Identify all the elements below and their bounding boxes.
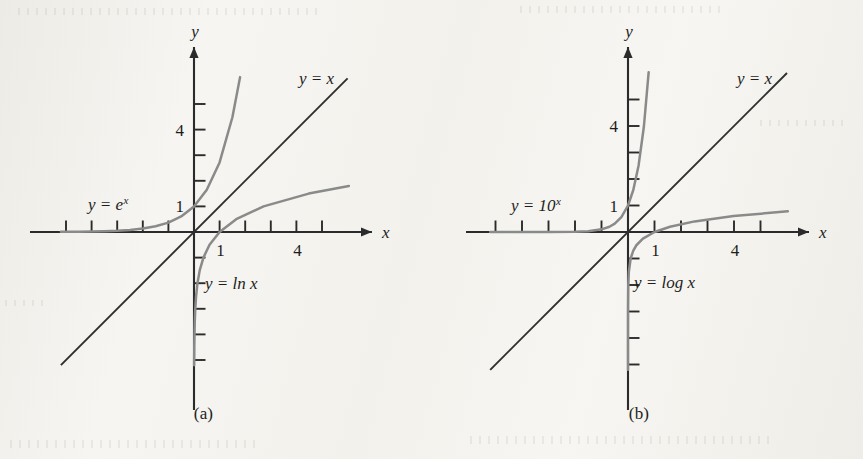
y-axis-label: y	[623, 22, 633, 41]
figure-pair: 1414xyy = xy = exy = ln x (a) 1414xyy = …	[0, 0, 863, 459]
chart-svg-a: 1414xyy = xy = exy = ln x	[0, 0, 431, 459]
y-axis-arrowhead	[623, 47, 632, 58]
y-axis-label: y	[189, 22, 199, 41]
logarithm-curve-label: y = ln x	[203, 274, 258, 293]
x-axis-tick-label: 1	[216, 241, 225, 260]
logarithm-curve-label: y = log x	[632, 273, 695, 292]
exponential-curve-label-exponent: x	[123, 194, 129, 206]
x-axis-arrowhead	[798, 227, 809, 236]
exponential-curve-label-base: y = 10	[509, 196, 556, 215]
panel-caption-a: (a)	[0, 404, 419, 424]
chart-content: 1414xyy = xy = 10xy = log x	[466, 22, 827, 410]
logarithm-curve-label-base: y = log x	[632, 273, 695, 292]
identity-line-label: y = x	[297, 69, 335, 88]
chart-content: 1414xyy = xy = exy = ln x	[30, 22, 390, 410]
y-axis-tick-label: 1	[610, 197, 619, 216]
y-axis-tick-label: 4	[610, 117, 619, 136]
chart-panel-a: 1414xyy = xy = exy = ln x (a)	[0, 0, 431, 459]
exponential-curve-label-exponent: x	[555, 195, 561, 207]
exponential-curve-label: y = 10x	[509, 195, 561, 215]
identity-line	[61, 78, 348, 365]
x-axis-tick-label: 4	[731, 241, 740, 260]
y-axis-tick-label: 1	[176, 197, 185, 216]
logarithm-curve-label-base: y = ln x	[203, 274, 258, 293]
exponential-curve-label-base: y = e	[86, 195, 124, 214]
x-axis-tick-label: 1	[651, 241, 660, 260]
x-axis-arrowhead	[361, 227, 372, 236]
exponential-curve-label: y = ex	[86, 194, 129, 214]
identity-line-label: y = x	[735, 69, 773, 88]
x-axis-label: x	[381, 223, 390, 242]
x-axis-tick-label: 4	[293, 241, 302, 260]
identity-line	[490, 73, 787, 370]
chart-panel-b: 1414xyy = xy = 10xy = log x (b)	[431, 0, 863, 459]
identity-line-label-base: y = x	[735, 69, 773, 88]
identity-line-label-base: y = x	[297, 69, 335, 88]
x-axis-label: x	[818, 223, 827, 242]
panel-caption-b: (b)	[423, 404, 855, 424]
y-axis-tick-label: 4	[176, 121, 185, 140]
chart-svg-b: 1414xyy = xy = 10xy = log x	[431, 0, 863, 459]
y-axis-arrowhead	[189, 47, 198, 58]
